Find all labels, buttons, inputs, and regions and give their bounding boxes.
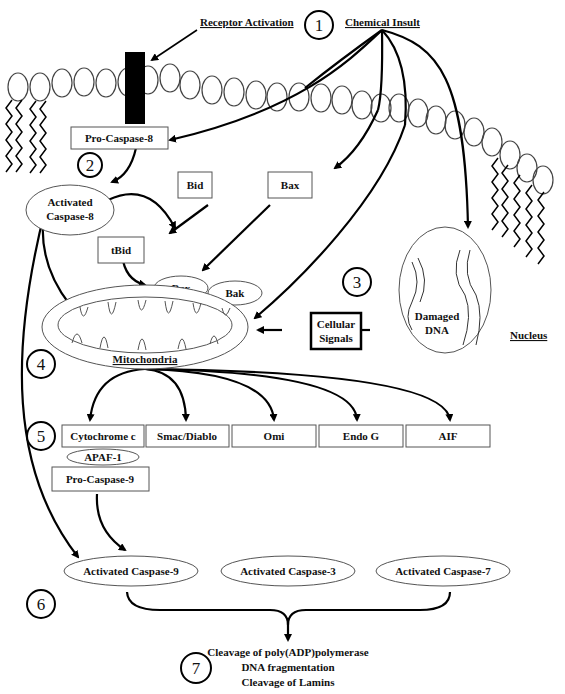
svg-text:DNA: DNA	[425, 324, 449, 336]
svg-text:Bid: Bid	[187, 179, 204, 191]
svg-text:Endo G: Endo G	[343, 430, 380, 442]
step-2-number: 2	[86, 156, 95, 175]
factor-smac-diablo: Smac/Diablo	[146, 425, 229, 447]
svg-text:Omi: Omi	[264, 430, 285, 442]
factor-cytochrome-c: Cytochrome c	[62, 425, 144, 447]
activated-caspase-3-ellipse: Activated Caspase-3	[221, 556, 355, 586]
activated-caspase-9-ellipse: Activated Caspase-9	[64, 556, 198, 586]
bax-top-box: Bax	[268, 172, 312, 198]
svg-text:Activated: Activated	[47, 196, 92, 208]
svg-text:Caspase-8: Caspase-8	[46, 210, 94, 222]
bid-box: Bid	[178, 172, 212, 198]
svg-text:Bak: Bak	[226, 287, 246, 299]
activated-caspase-7-ellipse: Activated Caspase-7	[376, 556, 510, 586]
receptor-activation-label: Receptor Activation	[200, 16, 294, 28]
diagram-svg: Receptor Activation 1 Chemical Insult	[0, 0, 565, 694]
mitochondria: Mitochondria	[42, 285, 248, 369]
svg-text:Pro-Caspase-8: Pro-Caspase-8	[85, 132, 154, 144]
apaf1-ellipse: APAF-1	[67, 449, 139, 465]
lipid-tails-left	[6, 100, 46, 173]
apoptosis-diagram: Receptor Activation 1 Chemical Insult	[0, 0, 565, 694]
svg-text:Activated Caspase-3: Activated Caspase-3	[240, 565, 336, 577]
svg-text:Cytochrome c: Cytochrome c	[70, 430, 136, 442]
nucleus-label: Nucleus	[510, 329, 548, 341]
step-5-number: 5	[37, 427, 46, 446]
svg-text:APAF-1: APAF-1	[84, 451, 122, 463]
step-3-number: 3	[353, 273, 362, 292]
factor-aif: AIF	[406, 425, 490, 447]
mitochondria-label: Mitochondria	[113, 353, 178, 365]
svg-text:Activated Caspase-9: Activated Caspase-9	[83, 565, 179, 577]
outcome-dna-fragmentation: DNA fragmentation	[241, 661, 334, 673]
damaged-dna-label: Damaged	[415, 310, 460, 322]
svg-text:Pro-Caspase-9: Pro-Caspase-9	[66, 473, 135, 485]
pro-caspase-8-box: Pro-Caspase-8	[71, 127, 168, 149]
outcome-parp-cleavage: Cleavage of poly(ADP)polymerase	[207, 646, 368, 659]
factor-omi: Omi	[232, 425, 316, 447]
svg-text:Activated Caspase-7: Activated Caspase-7	[395, 565, 491, 577]
outcome-lamin-cleavage: Cleavage of Lamins	[242, 676, 336, 688]
svg-text:Signals: Signals	[319, 332, 353, 344]
step-6-number: 6	[37, 595, 46, 614]
receptor	[125, 52, 145, 124]
chemical-insult-label: Chemical Insult	[345, 16, 420, 28]
step-1-number: 1	[315, 16, 324, 35]
tbid-box: tBid	[98, 237, 144, 263]
svg-text:AIF: AIF	[439, 430, 458, 442]
cellular-signals-box: Cellular Signals	[311, 313, 361, 349]
svg-text:Smac/Diablo: Smac/Diablo	[157, 430, 217, 442]
svg-text:Bax: Bax	[281, 179, 300, 191]
activated-caspase-8-ellipse: Activated Caspase-8	[26, 185, 114, 235]
nucleus: Damaged DNA	[399, 227, 491, 353]
pro-caspase-9-box: Pro-Caspase-9	[52, 467, 149, 491]
svg-text:Cellular: Cellular	[317, 318, 356, 330]
step-7-number: 7	[192, 659, 201, 678]
svg-text:tBid: tBid	[111, 244, 131, 256]
step-4-number: 4	[37, 355, 46, 374]
factor-endo-g: Endo G	[319, 425, 403, 447]
